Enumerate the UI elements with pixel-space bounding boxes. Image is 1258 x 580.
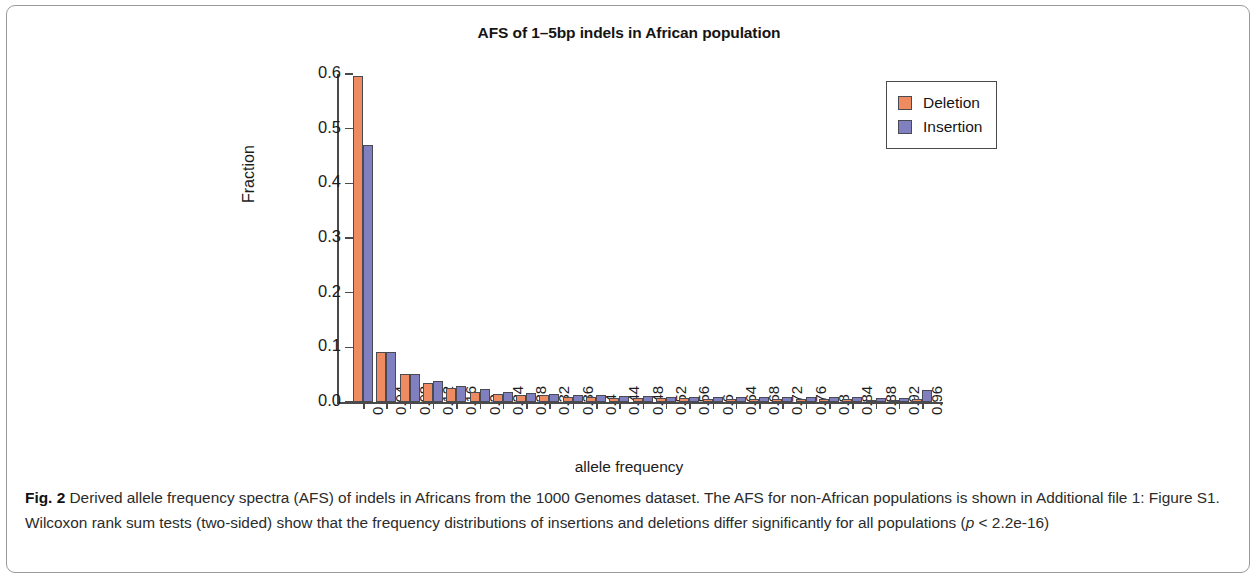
x-tick-mark [433,402,435,409]
y-tick-mark [345,128,353,130]
bar-deletion [726,399,736,402]
x-tick-mark [480,402,482,409]
bar-deletion [400,374,410,402]
bar-deletion [749,399,759,402]
x-tick-mark [876,402,878,409]
bar-deletion [633,398,643,402]
x-tick-mark [363,402,365,409]
x-tick-label: 0.96 [928,386,945,415]
bar-deletion [470,392,480,402]
legend-item-deletion: Deletion [898,91,982,115]
bar-deletion [842,399,852,402]
y-tick-label: 0.0 [318,391,341,410]
x-tick-mark [806,402,808,409]
x-tick-mark [829,402,831,409]
y-tick-label: 0.3 [318,227,341,246]
bar-deletion [423,383,433,402]
bar-deletion [656,398,666,402]
x-tick-mark [689,402,691,409]
y-tick-mark [345,292,353,294]
bar-insertion [363,145,373,402]
y-tick-label: 0.4 [318,172,341,191]
bar-deletion [819,399,829,402]
chart-title: AFS of 1–5bp indels in African populatio… [7,24,1251,42]
bar-deletion [703,399,713,402]
bar-deletion [889,400,899,403]
figure-caption: Fig. 2 Derived allele frequency spectra … [25,485,1233,535]
caption-p-value-symbol: p [966,514,975,531]
y-tick-mark [345,347,353,349]
legend-label-deletion: Deletion [923,94,980,112]
chart-legend: Deletion Insertion [886,81,997,149]
x-tick-mark [852,402,854,409]
x-tick-mark [596,402,598,409]
legend-label-insertion: Insertion [923,118,982,136]
x-tick-mark [899,402,901,409]
x-tick-label: 0.6 [719,394,736,415]
x-tick-mark [386,402,388,409]
plot-region: AFS of 1–5bp indels in African populatio… [7,6,1251,476]
y-axis-label: Fraction [240,145,258,203]
x-tick-mark [736,402,738,409]
figure-number: Fig. 2 [25,489,65,506]
figure-page: AFS of 1–5bp indels in African populatio… [0,0,1258,580]
legend-swatch-insertion [898,120,912,134]
x-tick-mark [666,402,668,409]
legend-swatch-deletion [898,96,912,110]
bar-deletion [376,352,386,402]
bar-deletion [912,399,922,402]
x-tick-mark [619,402,621,409]
bar-deletion [866,400,876,403]
bar-deletion [516,395,526,402]
y-tick-label: 0.1 [318,336,341,355]
y-tick-label: 0.2 [318,282,341,301]
caption-text-part2: < 2.2e-16) [974,514,1049,531]
bar-deletion [586,397,596,402]
y-tick-mark [345,183,353,185]
y-tick-mark [345,401,353,403]
bar-deletion [772,399,782,402]
bar-deletion [539,395,549,402]
x-tick-mark [713,402,715,409]
x-axis-label: allele frequency [7,458,1251,476]
x-tick-label: 0.8 [835,394,852,415]
x-tick-mark [503,402,505,409]
figure-frame: AFS of 1–5bp indels in African populatio… [6,5,1250,573]
y-tick-label: 0.5 [318,118,341,137]
x-tick-label: 0 [369,407,386,415]
x-tick-mark [643,402,645,409]
x-tick-mark [456,402,458,409]
bar-deletion [796,399,806,402]
bar-deletion [679,398,689,402]
x-tick-mark [573,402,575,409]
x-tick-mark [922,402,924,409]
x-tick-mark [549,402,551,409]
x-tick-mark [526,402,528,409]
y-tick-label: 0.6 [318,63,341,82]
x-tick-mark [782,402,784,409]
chart-axes: 0.00.10.20.30.40.50.600.040.080.120.160.… [353,74,953,402]
y-tick-mark [345,237,353,239]
bar-deletion [563,397,573,402]
x-tick-mark [410,402,412,409]
bar-deletion [353,76,363,402]
legend-item-insertion: Insertion [898,115,982,139]
bar-deletion [446,388,456,402]
bar-deletion [609,398,619,402]
bar-deletion [493,394,503,402]
x-tick-mark [759,402,761,409]
y-tick-mark [345,73,353,75]
